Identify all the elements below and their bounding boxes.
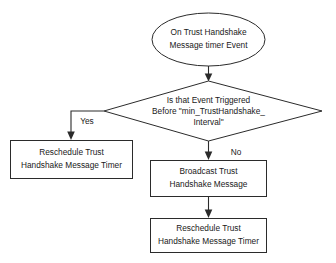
node-broadcast-process[interactable]: Broadcast Trust Handshake Message: [151, 161, 267, 197]
edge-label-no: No: [231, 147, 242, 157]
broadcast-process-text-line2: Handshake Message: [170, 179, 248, 189]
flowchart-svg: Yes No On Trust Handshake Message timer …: [0, 0, 336, 263]
node-yes-process[interactable]: Reschedule Trust Handshake Message Timer: [11, 141, 133, 179]
decision-text-line1: Is that Event Triggered: [167, 95, 251, 105]
yes-process-text-line2: Handshake Message Timer: [21, 160, 122, 170]
node-reschedule-process[interactable]: Reschedule Trust Handshake Message Timer: [151, 219, 267, 253]
edge-label-yes: Yes: [80, 116, 94, 126]
connector-start-to-decision: [205, 66, 213, 82]
yes-process-text-line1: Reschedule Trust: [39, 147, 104, 157]
connector-decision-to-broadcast: [205, 141, 213, 160]
flowchart-canvas: Yes No On Trust Handshake Message timer …: [0, 0, 336, 263]
node-decision[interactable]: Is that Event Triggered Before "min_Trus…: [104, 81, 322, 141]
reschedule-process-text-line2: Handshake Message Timer: [158, 236, 259, 246]
connector-broadcast-to-reschedule: [205, 196, 213, 218]
decision-text-line2: Before "min_TrustHandshake_: [152, 106, 265, 116]
broadcast-process-text-line1: Broadcast Trust: [179, 166, 238, 176]
node-start[interactable]: On Trust Handshake Message timer Event: [152, 13, 265, 66]
start-text-line1: On Trust Handshake: [170, 27, 246, 37]
start-text-line2: Message timer Event: [170, 40, 249, 50]
decision-text-line3: Interval": [193, 117, 223, 127]
reschedule-process-text-line1: Reschedule Trust: [176, 223, 241, 233]
